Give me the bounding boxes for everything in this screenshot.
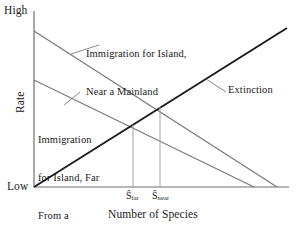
x-tick-s-far-subscript: far xyxy=(132,194,140,201)
annotation-immigration-near-line1: Immigration for Island, xyxy=(86,48,187,61)
y-axis-low-label: Low xyxy=(7,180,28,192)
x-tick-label-s-near: Ŝnear xyxy=(152,190,169,201)
y-axis-high-label: High xyxy=(4,4,27,16)
annotation-extinction: Extinction xyxy=(228,84,273,95)
annotation-immigration-far-line2: for Island, Far xyxy=(38,172,99,185)
annotation-immigration-far-line1: Immigration xyxy=(38,134,99,147)
leader-line-immigration-far xyxy=(64,92,80,105)
leader-line-extinction xyxy=(206,79,226,92)
annotation-immigration-near-line2: Near a Mainland xyxy=(86,86,187,99)
annotation-immigration-far-line3: From a xyxy=(38,210,99,223)
x-tick-s-near-subscript: near xyxy=(158,194,170,201)
x-axis-title: Number of Species xyxy=(108,208,198,220)
y-axis-title: Rate xyxy=(14,72,26,132)
island-biogeography-chart: High Low Rate Number of Species Immigrat… xyxy=(0,0,296,227)
x-tick-label-s-far: Ŝfar xyxy=(126,190,139,201)
annotation-immigration-near: Immigration for Island, Near a Mainland xyxy=(86,22,187,124)
annotation-immigration-far: Immigration for Island, Far From a Mainl… xyxy=(38,108,99,227)
